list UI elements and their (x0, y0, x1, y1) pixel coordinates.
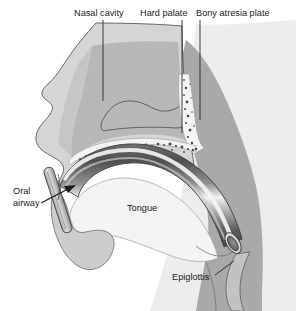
anatomical-figure: Nasal cavity Hard palate Bony atresia pl… (0, 0, 300, 311)
label-bony-atresia-plate: Bony atresia plate (196, 8, 270, 18)
diagram-canvas: Nasal cavity Hard palate Bony atresia pl… (0, 0, 300, 311)
label-epiglottis: Epiglottis (172, 272, 210, 282)
label-tongue: Tongue (127, 203, 157, 213)
label-nasal-cavity: Nasal cavity (74, 8, 124, 18)
label-oral-airway-line2: airway (13, 198, 40, 208)
label-oral-airway-line1: Oral (13, 186, 30, 196)
label-hard-palate: Hard palate (140, 8, 188, 18)
